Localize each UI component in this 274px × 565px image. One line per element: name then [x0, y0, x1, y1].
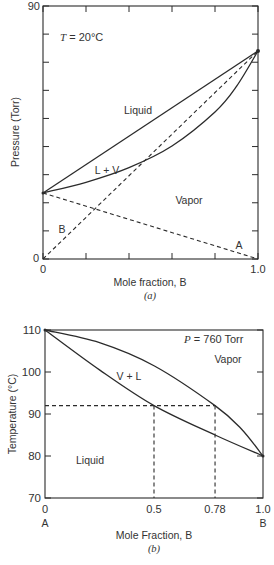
- phase-diagrams: 90 0 0 1.0 Mole fraction, B (a) Pressure…: [0, 0, 274, 565]
- chart-a-x-max-label: 1.0: [250, 263, 265, 275]
- chart-a-region-vapor: Vapor: [175, 194, 203, 206]
- chart-a-x-ticks: [43, 6, 258, 259]
- chart-b-title-value: = 760 Torr: [191, 333, 244, 345]
- chart-a-region-l-plus-v: L + V: [95, 164, 119, 176]
- chart-b-y-label-100: 100: [22, 366, 41, 378]
- chart-a-plot-frame: [43, 6, 258, 259]
- chart-a-y-ticks: [43, 6, 258, 259]
- chart-b-title: P = 760 Torr: [183, 333, 244, 345]
- chart-a-series-0: [43, 51, 258, 193]
- chart-b-caption: (b): [148, 543, 161, 555]
- chart-a-region-liquid: Liquid: [124, 104, 152, 116]
- chart-a: 90 0 0 1.0 Mole fraction, B (a) Pressure…: [9, 0, 266, 302]
- chart-b-y-label-90: 90: [28, 408, 41, 420]
- chart-a-series-2: [43, 51, 258, 259]
- chart-a-caption: (a): [144, 290, 157, 302]
- chart-b-region-v-plus-l: V + L: [117, 370, 142, 382]
- chart-a-series: [43, 51, 258, 259]
- chart-a-label-a: A: [235, 239, 242, 251]
- chart-a-y-max-label: 90: [28, 0, 40, 12]
- chart-b-pure-b-point: [262, 455, 265, 458]
- chart-a-label-b: B: [58, 223, 65, 235]
- chart-b-x-label-1-0: 1.0: [255, 503, 270, 515]
- chart-b-region-liquid: Liquid: [76, 454, 104, 466]
- chart-a-title-value: = 20°C: [66, 31, 103, 43]
- chart-b-end-label-a: A: [41, 517, 48, 529]
- chart-a-pure-b-point: [256, 49, 260, 53]
- chart-b-x-label-0-5: 0.5: [146, 503, 161, 515]
- chart-b-y-axis-title: Temperature (°C): [6, 374, 18, 455]
- chart-b-y-label-70: 70: [28, 492, 41, 504]
- chart-b-x-label-0-78: 0.78: [204, 503, 225, 515]
- chart-b-y-label-110: 110: [23, 324, 41, 336]
- chart-b-x-label-0: 0: [42, 503, 48, 515]
- chart-a-x-min-label: 0: [40, 263, 46, 275]
- chart-b-end-label-b: B: [259, 517, 266, 529]
- chart-b-y-label-80: 80: [28, 450, 41, 462]
- chart-b-region-vapor: Vapor: [214, 353, 242, 365]
- chart-a-pure-a-point: [42, 191, 45, 194]
- chart-a-y-axis-title: Pressure (Torr): [9, 97, 21, 167]
- chart-a-title: T = 20°C: [60, 31, 103, 43]
- chart-b: 110 100 90 80 70 0 0.5 0.78 1.0 A B Mole…: [6, 324, 271, 555]
- chart-b-x-axis-title: Mole Fraction, B: [116, 529, 192, 541]
- chart-b-pure-a-point: [44, 329, 47, 332]
- chart-a-x-axis-title: Mole fraction, B: [114, 276, 187, 288]
- chart-a-y-min-label: 0: [33, 252, 39, 264]
- chart-a-series-3: [43, 193, 258, 259]
